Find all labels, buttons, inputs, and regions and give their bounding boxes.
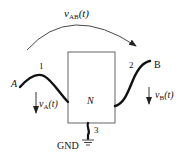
voltage-a-label: vA(t) (39, 98, 59, 111)
wire-a (20, 75, 68, 102)
terminal-1-label: 1 (39, 61, 44, 71)
terminal-3-label: 3 (94, 125, 99, 135)
network-label: N (86, 95, 95, 106)
voltage-ab-arrow (27, 25, 136, 50)
terminal-2-label: 2 (129, 60, 134, 70)
ground-icon (82, 140, 94, 145)
voltage-ab-label: vAB(t) (64, 7, 89, 21)
node-b-label: B (154, 59, 161, 70)
ground-label: GND (57, 140, 79, 151)
network-diagram: vAB(t) N A 1 vA(t) B 2 vB(t) 3 GND (0, 0, 188, 161)
node-a-label: A (10, 78, 18, 89)
network-box (68, 52, 115, 123)
wire-ground (88, 123, 89, 139)
voltage-b-label: vB(t) (155, 89, 174, 102)
